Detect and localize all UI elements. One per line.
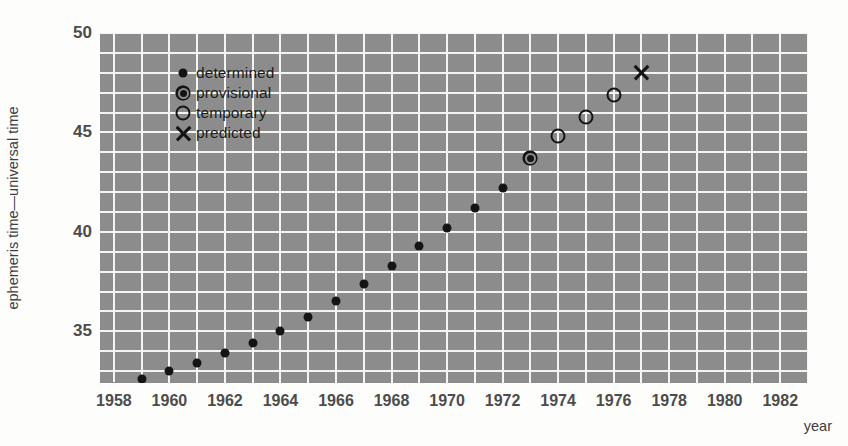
x-tick-label: 1968 (374, 392, 410, 410)
x-tick-label: 1960 (152, 392, 188, 410)
gridline-vertical (613, 33, 615, 383)
gridline-vertical (668, 33, 670, 383)
legend: determinedprovisionaltemporarypredicted (170, 63, 400, 143)
gridline-horizontal (100, 291, 808, 293)
gridline-horizontal (100, 370, 808, 372)
legend-label: predicted (196, 124, 261, 142)
x-tick-label: 1972 (485, 392, 521, 410)
x-tick-label: 1964 (263, 392, 299, 410)
data-point-determined (470, 204, 479, 213)
gridline-vertical (113, 33, 115, 383)
legend-glyph (175, 125, 192, 142)
gridline-horizontal (100, 211, 808, 213)
data-point-determined (332, 297, 341, 306)
gridline-horizontal (100, 33, 808, 34)
x-tick-label: 1976 (596, 392, 632, 410)
y-tick-label: 35 (62, 321, 92, 341)
gridline-vertical (141, 33, 143, 383)
x-tick-label: 1978 (651, 392, 687, 410)
legend-marker-filled-dot-icon (170, 63, 196, 83)
gridline-vertical (807, 33, 808, 383)
gridline-vertical (557, 33, 559, 383)
data-point-temporary (551, 129, 566, 144)
gridline-horizontal (100, 231, 808, 233)
legend-label: provisional (196, 84, 271, 102)
x-tick-label: 1958 (96, 392, 132, 410)
legend-marker-cross-icon (170, 123, 196, 143)
legend-item: provisional (170, 83, 400, 103)
x-tick-label: 1970 (429, 392, 465, 410)
data-point-determined (359, 279, 368, 288)
data-point-determined (276, 327, 285, 336)
y-tick-label: 50 (62, 23, 92, 43)
legend-glyph (179, 69, 188, 78)
gridline-vertical (585, 33, 587, 383)
x-tick-label: 1966 (318, 392, 354, 410)
gridline-horizontal (100, 271, 808, 273)
y-tick-label: 45 (62, 122, 92, 142)
data-point-determined (137, 375, 146, 383)
x-tick-label: 1962 (207, 392, 243, 410)
x-axis-label: year (804, 418, 832, 434)
y-axis-label: ephemeris time—universal time (0, 33, 26, 383)
gridline-vertical (779, 33, 781, 383)
data-point-predicted (633, 64, 650, 81)
legend-marker-open-circle-icon (170, 103, 196, 123)
x-tick-label: 1982 (762, 392, 798, 410)
gridline-vertical (502, 33, 504, 383)
legend-marker-ringed-dot-icon (170, 83, 196, 103)
chart-figure: ephemeris time—universal time 50454035 d… (0, 0, 848, 446)
data-point-temporary (578, 109, 593, 124)
data-point-determined (304, 313, 313, 322)
plot-area: determinedprovisionaltemporarypredicted (100, 33, 808, 383)
gridline-vertical (529, 33, 531, 383)
data-point-determined (248, 339, 257, 348)
gridline-horizontal (100, 171, 808, 173)
legend-glyph (176, 106, 191, 121)
y-tick-label: 40 (62, 222, 92, 242)
data-point-temporary (606, 87, 621, 102)
legend-label: determined (196, 64, 275, 82)
gridline-horizontal (100, 350, 808, 352)
gridline-horizontal (100, 251, 808, 253)
gridline-horizontal (100, 52, 808, 54)
gridline-vertical (418, 33, 420, 383)
gridline-vertical (724, 33, 726, 383)
data-point-determined (498, 184, 507, 193)
legend-label: temporary (196, 104, 267, 122)
legend-item: predicted (170, 123, 400, 143)
gridline-vertical (446, 33, 448, 383)
legend-item: temporary (170, 103, 400, 123)
data-point-determined (109, 382, 118, 383)
legend-glyph (176, 86, 191, 101)
gridline-horizontal (100, 330, 808, 332)
gridline-vertical (751, 33, 753, 383)
gridline-vertical (640, 33, 642, 383)
data-point-determined (443, 223, 452, 232)
x-tick-label: 1974 (540, 392, 576, 410)
data-point-determined (387, 261, 396, 270)
gridline-horizontal (100, 191, 808, 193)
gridline-vertical (696, 33, 698, 383)
gridline-horizontal (100, 151, 808, 153)
gridline-horizontal (100, 310, 808, 312)
data-point-determined (193, 359, 202, 368)
legend-item: determined (170, 63, 400, 83)
data-point-determined (220, 349, 229, 358)
data-point-determined (415, 241, 424, 250)
data-point-determined (165, 367, 174, 376)
data-point-provisional (523, 151, 538, 166)
x-tick-label: 1980 (707, 392, 743, 410)
